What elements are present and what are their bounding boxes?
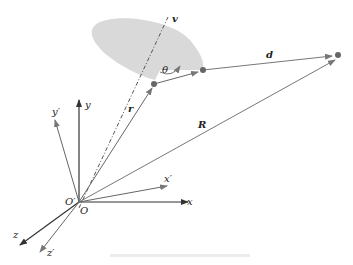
- point-r-tip: [151, 81, 157, 87]
- label-theta: θ: [162, 64, 168, 75]
- R-vector: [79, 60, 335, 202]
- label-z: z: [12, 229, 19, 240]
- label-x-prime: x′: [164, 173, 173, 184]
- label-z-prime: z′: [46, 247, 55, 258]
- label-O-prime: O′: [65, 196, 76, 207]
- label-x: x: [187, 196, 193, 207]
- label-y: y: [84, 99, 91, 110]
- point-target: [335, 52, 341, 58]
- displacement-vector: [154, 72, 198, 84]
- label-d: d: [266, 49, 273, 60]
- label-r: r: [128, 103, 134, 114]
- z-axis: [20, 202, 79, 245]
- x-prime-axis: [79, 186, 167, 202]
- label-y-prime: y′: [51, 106, 61, 117]
- z-prime-axis: [40, 202, 79, 252]
- point-d-start: [200, 67, 206, 73]
- figure-caption: [110, 254, 250, 257]
- y-prime-axis: [55, 120, 79, 202]
- label-R: R: [197, 119, 206, 130]
- diagram-canvas: v θ d r R y y′ x x′ z z′ O O′: [0, 0, 353, 265]
- label-O: O: [80, 205, 88, 216]
- shaded-region: [92, 18, 204, 80]
- label-v: v: [172, 13, 178, 24]
